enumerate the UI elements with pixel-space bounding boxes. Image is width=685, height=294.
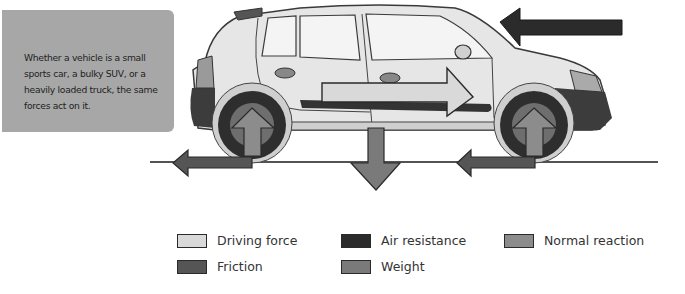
air-resistance-swatch — [341, 234, 371, 248]
legend-item-air-resistance: Air resistance — [341, 233, 466, 248]
legend-item-weight: Weight — [341, 259, 425, 274]
legend-item-friction: Friction — [177, 259, 263, 274]
weight-swatch — [341, 260, 371, 274]
air-resistance-arrow — [500, 8, 622, 46]
weight-arrow — [351, 128, 400, 190]
normal-reaction-swatch — [504, 234, 534, 248]
driving-force-swatch — [177, 234, 207, 248]
force-diagram — [0, 0, 685, 210]
legend-item-normal-reaction: Normal reaction — [504, 233, 644, 248]
friction-swatch — [177, 260, 207, 274]
legend-item-driving-force: Driving force — [177, 233, 297, 248]
